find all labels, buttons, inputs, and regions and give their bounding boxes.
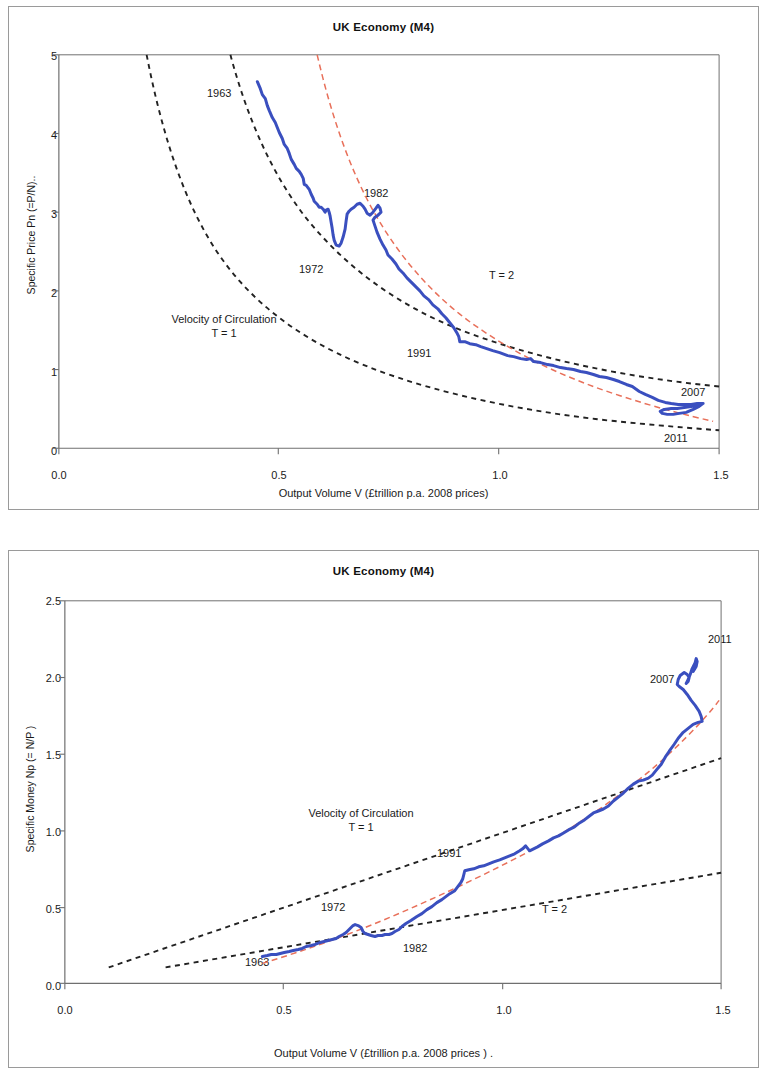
- y-tick-marks: [59, 601, 65, 984]
- curve-velocity-t1: [147, 55, 719, 431]
- curve-uk-economy: [262, 659, 702, 957]
- page-root: UK Economy (M4) Specific Price Pn (=P/N)…: [0, 0, 767, 1078]
- x-tick-marks: [59, 448, 719, 454]
- figure-panel-bottom: UK Economy (M4) Specific Money Np (= N/P…: [8, 550, 759, 1068]
- curve-uk-economy: [257, 82, 703, 415]
- figure-panel-top: UK Economy (M4) Specific Price Pn (=P/N)…: [8, 6, 759, 510]
- chart-plot-area-bottom: [9, 551, 758, 1067]
- curve-trend-red: [317, 55, 713, 422]
- curve-t2: [166, 873, 722, 968]
- chart-plot-area-top: [9, 7, 758, 509]
- y-tick-marks: [53, 55, 59, 448]
- curve-velocity-t1: [109, 758, 721, 967]
- curve-t2: [230, 55, 719, 387]
- x-tick-marks: [65, 983, 721, 989]
- curve-trend-red: [262, 700, 719, 963]
